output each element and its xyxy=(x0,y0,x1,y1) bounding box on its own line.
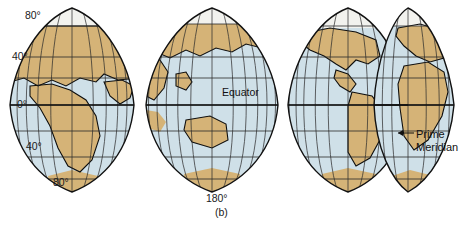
latitude-label-80s: 80° xyxy=(53,176,69,188)
figure-container: 80° 40° 0° 40° 80° 180° Equator Prime Me… xyxy=(0,0,467,226)
prime-meridian-label-line1: Prime xyxy=(416,128,458,141)
longitude-label-180: 180° xyxy=(206,192,227,204)
latitude-label-40n: 40° xyxy=(12,50,28,62)
figure-caption: (b) xyxy=(215,206,228,218)
latitude-label-80n: 80° xyxy=(25,9,41,21)
world-map-graphic xyxy=(0,0,467,226)
latitude-label-40s: 40° xyxy=(26,140,42,152)
prime-meridian-label-line2: Meridian xyxy=(416,141,458,154)
equator-label: Equator xyxy=(222,86,259,98)
prime-meridian-label: Prime Meridian xyxy=(416,128,458,153)
latitude-label-0: 0° xyxy=(17,98,27,110)
